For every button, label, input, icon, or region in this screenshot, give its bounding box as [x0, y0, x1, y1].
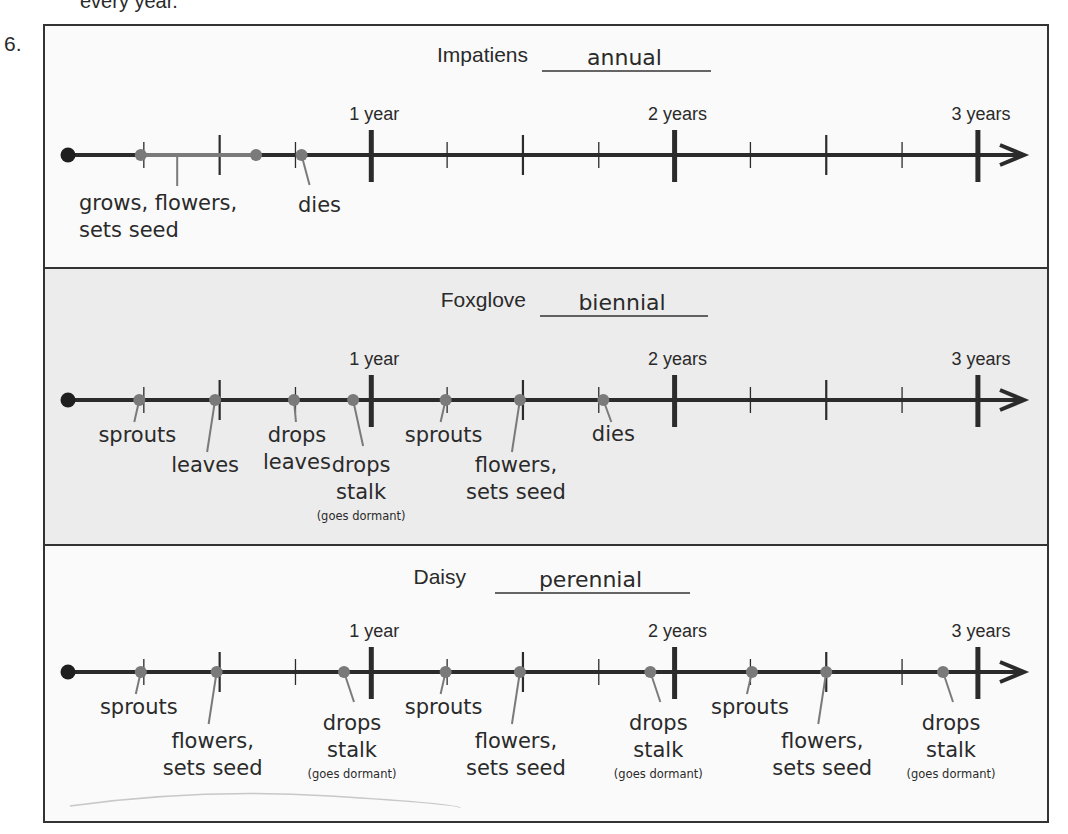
year-label: 2 years [648, 621, 707, 641]
question-number: 6. [4, 32, 22, 55]
year-label: 3 years [951, 349, 1010, 369]
year-label: 2 years [648, 349, 707, 369]
event-label-group: dies [298, 193, 341, 217]
event-label: drops [629, 711, 688, 735]
event-label-group: sprouts [405, 423, 483, 447]
year-label: 3 years [951, 104, 1010, 124]
event-label: leaves [171, 453, 239, 477]
event-note: (goes dormant) [907, 767, 996, 781]
event-label: flowers, [475, 729, 557, 753]
panel-foxglove: Foxglovebiennial1 year2 years3 yearsspro… [44, 268, 1048, 545]
answer-text: annual [587, 45, 662, 70]
event-label: sets seed [163, 756, 263, 780]
event-label: stalk [336, 480, 387, 504]
event-label: leaves [263, 450, 331, 474]
year-label: 2 years [648, 104, 707, 124]
event-label: flowers, [475, 453, 557, 477]
event-label: flowers, [171, 729, 253, 753]
event-note: (goes dormant) [317, 509, 406, 523]
event-label: sprouts [98, 423, 176, 447]
answer-text: biennial [578, 290, 665, 315]
event-label: drops [323, 711, 382, 735]
event-label: drops [332, 453, 391, 477]
event-label: dies [592, 422, 635, 446]
event-label: drops [922, 711, 981, 735]
event-label-group: sprouts [405, 695, 483, 719]
event-label: sprouts [100, 695, 178, 719]
event-note: (goes dormant) [614, 767, 703, 781]
event-point [135, 149, 147, 161]
event-label: sprouts [405, 695, 483, 719]
start-dot [61, 665, 76, 680]
event-label: dies [298, 193, 341, 217]
event-label: sets seed [466, 480, 566, 504]
year-label: 1 year [349, 621, 399, 641]
event-label: stalk [327, 738, 378, 762]
answer-text: perennial [539, 567, 642, 592]
life-cycle-diagram: every year. 6. Impatiensannual1 year2 ye… [0, 0, 1068, 834]
year-label: 3 years [951, 621, 1010, 641]
panel-impatiens: Impatiensannual1 year2 years3 yearsgrows… [44, 25, 1048, 268]
event-label: sprouts [405, 423, 483, 447]
event-label: stalk [926, 738, 977, 762]
year-label: 1 year [349, 104, 399, 124]
plant-name: Daisy [413, 565, 466, 588]
event-point [250, 149, 262, 161]
year-label: 1 year [349, 349, 399, 369]
plant-name: Impatiens [437, 43, 528, 66]
event-label-group: sprouts [711, 695, 789, 719]
event-label-group: leaves [171, 453, 239, 477]
event-label: sets seed [772, 756, 872, 780]
header-fragment: every year. [80, 0, 178, 12]
event-label-group: sprouts [100, 695, 178, 719]
start-dot [61, 148, 76, 163]
plant-name: Foxglove [441, 288, 526, 311]
panel-background [44, 25, 1048, 268]
event-label: sprouts [711, 695, 789, 719]
event-label: sets seed [79, 218, 179, 242]
event-label-group: sprouts [98, 423, 176, 447]
event-label: sets seed [466, 756, 566, 780]
event-label-group: dies [592, 422, 635, 446]
start-dot [61, 393, 76, 408]
panel-daisy: Daisyperennial1 year2 years3 yearssprout… [44, 545, 1048, 822]
event-label: grows, flowers, [79, 191, 237, 215]
event-note: (goes dormant) [308, 767, 397, 781]
event-label: flowers, [781, 729, 863, 753]
event-label: stalk [633, 738, 684, 762]
event-label: drops [268, 423, 327, 447]
